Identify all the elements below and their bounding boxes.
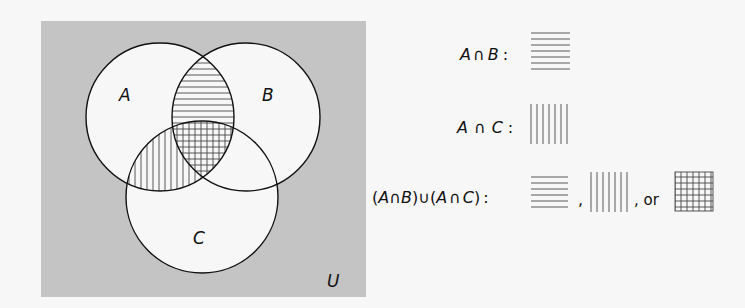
separator-comma: , (578, 190, 583, 209)
legend-row-union: (A∩B)∪(A∩C): , , or (372, 172, 713, 212)
paren-close: ) (474, 188, 480, 207)
legend-colon: : (503, 45, 508, 64)
intersect-symbol: ∩ (473, 45, 485, 64)
set-b-label: B (262, 85, 274, 105)
svg-text:(A∩B)∪(A∩C):: (A∩B)∪(A∩C): (372, 188, 489, 207)
svg-text:A∩B:: A∩B: (459, 45, 508, 64)
legend-row-a-and-c: A∩C: (456, 104, 571, 144)
vertical-hatch-swatch (586, 172, 628, 212)
legend-a: A (435, 188, 447, 207)
separator-or: , or (634, 191, 660, 209)
crosshatch-swatch (675, 172, 713, 211)
legend-row-a-and-b: A∩B: (459, 31, 570, 73)
set-a-label: A (118, 85, 131, 105)
legend-b: B (401, 188, 412, 207)
legend-b: B (488, 45, 499, 64)
universe-label: U (327, 271, 340, 291)
svg-text:A∩C:: A∩C: (456, 118, 513, 137)
horizontal-hatch-swatch (531, 31, 570, 73)
legend-colon: : (483, 188, 488, 207)
legend-a: A (459, 45, 471, 64)
set-c-label: C (193, 228, 205, 248)
horizontal-hatch-swatch (531, 172, 568, 212)
venn-diagram-figure: A B C U A∩B: A∩C: (A∩B)∪(A∩C): , , or (0, 0, 745, 308)
legend-a: A (377, 188, 389, 207)
legend-c: C (492, 118, 504, 137)
intersect-symbol: ∩ (474, 118, 486, 137)
intersect-symbol: ∩ (389, 188, 401, 207)
legend-colon: : (508, 118, 513, 137)
legend-a: A (456, 118, 468, 137)
intersect-symbol: ∩ (449, 188, 461, 207)
union-symbol: ∪ (418, 188, 430, 207)
vertical-hatch-swatch (529, 104, 571, 144)
